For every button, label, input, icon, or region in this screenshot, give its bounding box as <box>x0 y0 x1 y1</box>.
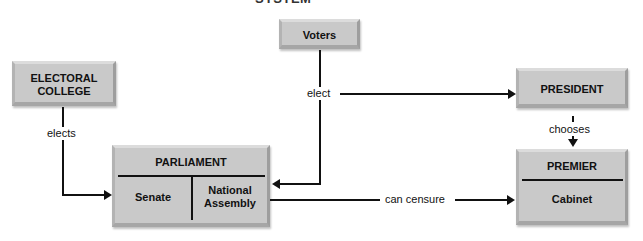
diagram-title: SYSTEM <box>255 0 311 6</box>
premier-label: PREMIER <box>519 160 625 173</box>
electoral-college-label: ELECTORAL COLLEGE <box>15 72 113 98</box>
president-box: PRESIDENT <box>516 68 628 108</box>
edge-label-chooses: chooses <box>546 123 593 136</box>
edge-label-can-censure: can censure <box>382 193 448 206</box>
edge-label-elects: elects <box>44 127 79 140</box>
arrowhead-down-icon <box>568 139 578 147</box>
edge-censure-line-right <box>455 199 507 201</box>
cabinet-label: Cabinet <box>519 193 625 206</box>
edge-elects-vertical <box>62 107 64 195</box>
edge-censure-line-left <box>270 199 380 201</box>
edge-chooses-vertical-top <box>572 116 574 122</box>
arrowhead-right-icon <box>104 190 112 200</box>
arrowhead-left-icon <box>272 179 280 189</box>
premier-box: PREMIER Cabinet <box>516 149 628 225</box>
voters-label: Voters <box>282 29 357 42</box>
arrowhead-right-icon <box>508 89 516 99</box>
president-label: PRESIDENT <box>519 83 625 96</box>
electoral-college-box: ELECTORAL COLLEGE <box>12 61 116 106</box>
edge-voters-to-president <box>340 93 508 95</box>
voters-box: Voters <box>279 19 360 49</box>
national-assembly-label: National Assembly <box>193 184 267 210</box>
parliament-box: PARLIAMENT Senate National Assembly <box>112 145 270 227</box>
edge-voters-vertical <box>319 50 321 184</box>
edge-elects-horizontal <box>62 194 104 196</box>
parliament-label: PARLIAMENT <box>115 156 267 169</box>
premier-divider <box>522 179 623 181</box>
senate-label: Senate <box>115 191 191 204</box>
edge-label-elect: elect <box>304 87 333 100</box>
edge-voters-to-parliament <box>279 183 321 185</box>
arrowhead-right-icon <box>507 195 515 205</box>
